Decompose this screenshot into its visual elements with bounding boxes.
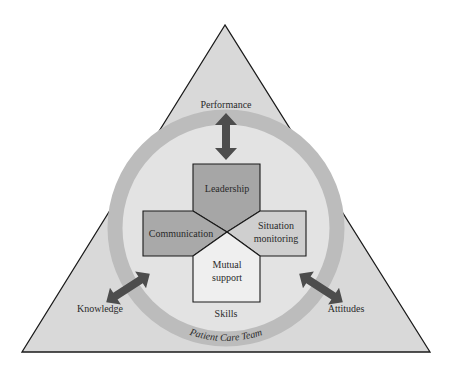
teamstepps-diagram: Performance Knowledge Attitudes Skills L…: [0, 0, 450, 372]
label-communication: Communication: [149, 228, 213, 239]
label-mutual: Mutual: [213, 259, 242, 270]
label-performance: Performance: [200, 99, 252, 110]
label-support: support: [212, 272, 242, 283]
label-knowledge: Knowledge: [77, 303, 124, 314]
label-situation: Situation: [258, 220, 294, 231]
label-leadership: Leadership: [205, 183, 249, 194]
label-skills: Skills: [215, 308, 238, 319]
label-attitudes: Attitudes: [328, 303, 365, 314]
label-monitoring: monitoring: [254, 233, 298, 244]
